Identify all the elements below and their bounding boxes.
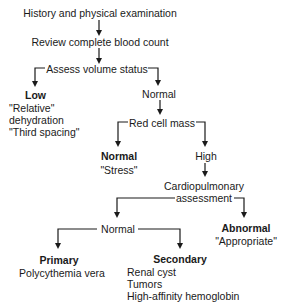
secondary-detail: Renal cyst (127, 266, 176, 278)
step-assessment: assessment (176, 192, 232, 204)
rcm-normal-detail: "Stress" (100, 164, 137, 176)
secondary-detail: Tumors (127, 278, 162, 290)
step-history-physical: History and physical examination (23, 7, 177, 19)
volume-low-detail: "Relative" (9, 102, 54, 114)
cardio-normal-label: Normal (101, 223, 135, 235)
cardio-abnormal-detail: "Appropriate" (215, 235, 277, 247)
step-red-cell-mass: Red cell mass (129, 117, 195, 129)
volume-low-detail: dehydration (9, 114, 64, 126)
primary-label: Primary (39, 254, 78, 266)
rcm-normal-label: Normal (101, 150, 137, 162)
step-cardiopulmonary: Cardiopulmonary (164, 180, 244, 192)
secondary-detail: High-affinity hemoglobin (127, 290, 239, 302)
step-assess-volume: Assess volume status (46, 63, 148, 75)
volume-normal-label: Normal (142, 88, 176, 100)
volume-low-detail: "Third spacing" (9, 126, 80, 138)
volume-low-label: Low (25, 89, 46, 101)
cardio-abnormal-label: Abnormal (221, 222, 270, 234)
rcm-high-label: High (195, 150, 217, 162)
step-review-cbc: Review complete blood count (31, 36, 168, 48)
polycythemia-flowchart: History and physical examination Review … (0, 0, 281, 308)
primary-detail: Polycythemia vera (19, 267, 105, 279)
secondary-label: Secondary (153, 253, 207, 265)
